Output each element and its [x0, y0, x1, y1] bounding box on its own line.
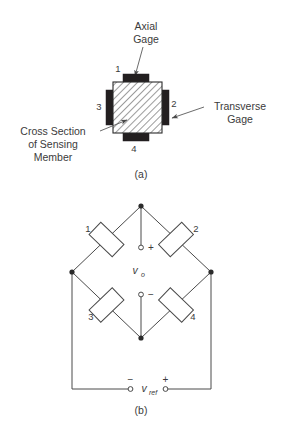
cross-section-label-line-2: of Sensing	[28, 138, 78, 150]
resistor-2-label: 2	[193, 223, 198, 234]
reference-voltage-label: v ref	[141, 382, 158, 396]
reference-minus-sign: −	[128, 374, 134, 385]
gage-number-bottom: 4	[131, 143, 136, 154]
gage-number-right: 2	[171, 98, 176, 109]
cross-section-label: Cross Section of Sensing Member	[20, 125, 86, 163]
gage-number-left: 3	[96, 101, 101, 112]
resistor-4-label: 4	[190, 311, 195, 322]
transverse-gage-label: Transverse Gage	[214, 100, 266, 125]
strain-gage-bridge-figure: Axial Gage 1 2 3 4 Transverse Gage	[0, 0, 283, 427]
output-voltage-symbol: v	[132, 264, 138, 276]
transverse-gage-label-line-1: Transverse	[214, 100, 266, 112]
bridge-node-left	[69, 269, 74, 274]
transverse-gage-label-line-2: Gage	[227, 113, 253, 125]
panel-a-group: Axial Gage 1 2 3 4 Transverse Gage	[20, 20, 266, 180]
output-terminal-minus[interactable]	[139, 292, 144, 297]
transverse-gage-leader-line	[172, 107, 204, 118]
cross-section-label-line-1: Cross Section	[20, 125, 86, 137]
reference-voltage-subscript: ref	[149, 389, 158, 396]
gage-number-top: 1	[115, 63, 120, 74]
axial-gage-label: Axial Gage	[133, 20, 159, 45]
output-voltage-label: v o	[132, 264, 145, 278]
output-plus-sign: +	[148, 242, 154, 253]
cross-section-label-line-3: Member	[34, 151, 73, 163]
sensing-member-cross-section	[113, 82, 162, 133]
output-terminal-plus[interactable]	[139, 245, 144, 250]
reference-terminal-minus[interactable]	[128, 387, 133, 392]
output-voltage-subscript: o	[141, 271, 145, 278]
reference-terminal-plus[interactable]	[163, 387, 168, 392]
resistor-1-label: 1	[85, 223, 90, 234]
bridge-node-right	[208, 269, 213, 274]
bridge-node-bottom	[138, 335, 143, 340]
panel-b-group: 1 2 3 4 + − v o − + v	[69, 203, 213, 416]
panel-b-caption: (b)	[135, 404, 148, 416]
panel-a-caption: (a)	[135, 168, 148, 180]
axial-gage-label-line-2: Gage	[133, 33, 159, 45]
output-minus-sign: −	[148, 289, 154, 300]
reference-voltage-symbol: v	[141, 382, 147, 394]
bridge-node-top	[138, 203, 143, 208]
figure-canvas: Axial Gage 1 2 3 4 Transverse Gage	[0, 0, 283, 427]
gage-bar-top	[123, 74, 149, 82]
resistor-3-label: 3	[88, 311, 93, 322]
axial-gage-label-line-1: Axial	[135, 20, 158, 32]
reference-plus-sign: +	[163, 374, 169, 385]
gage-bar-bottom	[123, 133, 149, 141]
axial-gage-leader-line	[135, 47, 143, 76]
excitation-wire-left	[72, 272, 133, 389]
